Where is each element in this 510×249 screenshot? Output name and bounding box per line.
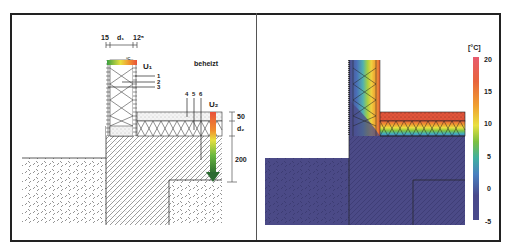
dim-top-left: 15 — [101, 34, 109, 41]
legend-tick-0: 0 — [487, 185, 491, 192]
wall-outer-layer — [106, 60, 110, 136]
legend-tick-10: 10 — [484, 120, 492, 127]
construction-detail: °C 15 d₁ 12⁵ U₁ beheizt 1 2 3 4 5 — [22, 34, 247, 225]
callout-6: 6 — [199, 91, 203, 97]
label-u1: U₁ — [143, 62, 153, 71]
legend-unit: [°C] — [468, 44, 481, 52]
floor-insulation — [137, 121, 222, 136]
u1-gradient-bar — [107, 60, 137, 65]
callout-3: 3 — [157, 84, 161, 90]
callout-4: 4 — [185, 91, 189, 97]
legend-tick-minus5: -5 — [485, 218, 491, 225]
legend-colorbar — [473, 57, 479, 220]
thermal-floor-insulation — [380, 121, 465, 136]
dim-top-middle: d₁ — [117, 34, 124, 41]
soil-right — [169, 180, 222, 225]
label-heated: beheizt — [194, 60, 219, 67]
thermal-concrete — [349, 136, 465, 225]
wall-inner-layer — [133, 60, 137, 136]
legend-tick-15: 15 — [484, 88, 492, 95]
u2-gradient-bar — [210, 112, 216, 174]
legend-tick-20: 20 — [484, 56, 492, 63]
thermal-floor-screed — [380, 112, 465, 121]
diagram-canvas: °C 15 d₁ 12⁵ U₁ beheizt 1 2 3 4 5 — [0, 0, 510, 249]
dim-top-right: 12⁵ — [133, 34, 144, 41]
thermal-soil-left — [265, 158, 349, 225]
callout-5: 5 — [192, 91, 196, 97]
soil-left — [22, 158, 106, 225]
floor-screed — [137, 112, 222, 121]
dim-right-middle: d₂ — [237, 125, 244, 132]
dim-right-bottom: 200 — [235, 156, 247, 163]
legend-tick-5: 5 — [487, 153, 491, 160]
temp-mark: °C — [126, 56, 131, 61]
dim-right-top: 50 — [237, 113, 245, 120]
foundation-strip — [106, 180, 169, 225]
thermal-simulation: [°C] 20 15 10 5 0 -5 — [265, 44, 492, 225]
label-u2: U₂ — [209, 100, 219, 109]
concrete-slab — [106, 136, 222, 180]
